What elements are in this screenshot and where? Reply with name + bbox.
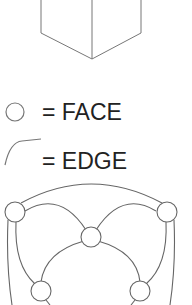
face-node-top-right xyxy=(157,202,177,222)
face-legend-label: = FACE xyxy=(42,99,122,126)
edge-legend-label: = EDGE xyxy=(42,148,127,175)
cube-drawing xyxy=(41,0,141,59)
edge-bl-down xyxy=(46,300,50,305)
edge-top-arc xyxy=(21,184,162,203)
edge-tr-center xyxy=(96,204,156,230)
face-node-bottom-right xyxy=(130,281,150,301)
face-legend-circle-icon xyxy=(6,103,24,121)
face-node-top-left xyxy=(5,202,25,222)
edge-tr-br xyxy=(146,222,166,284)
edge-tl-bl xyxy=(16,222,35,284)
edge-legend-curve-icon xyxy=(5,139,41,165)
edge-tr-outer xyxy=(170,220,175,305)
edge-tl-center xyxy=(25,204,86,230)
face-node-bottom-left xyxy=(31,281,51,301)
edge-br-down xyxy=(131,300,135,305)
edge-center-br xyxy=(98,241,140,282)
edge-tl-outer xyxy=(8,220,13,305)
dual-graph xyxy=(5,184,177,305)
face-node-center xyxy=(81,227,101,247)
edge-center-bl xyxy=(41,241,84,282)
